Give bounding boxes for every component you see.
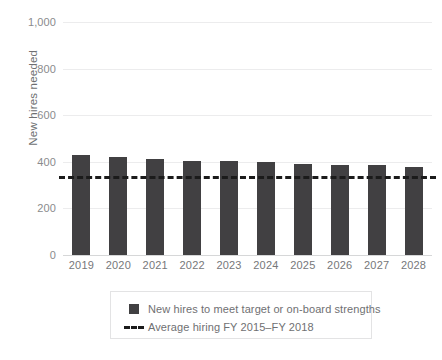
x-tick-label-2028: 2028 bbox=[401, 259, 426, 272]
bar-2028[interactable] bbox=[405, 167, 423, 255]
y-axis-title: New hires needed bbox=[28, 18, 40, 178]
chart-legend: New hires to meet target or on-board str… bbox=[110, 291, 372, 339]
x-tick-label-2020: 2020 bbox=[106, 259, 131, 272]
plot-area: 02004006008001,000 bbox=[63, 22, 432, 255]
y-tick-label: 200 bbox=[37, 203, 56, 214]
average-hiring-line bbox=[59, 176, 436, 179]
x-tick-label-2025: 2025 bbox=[290, 259, 315, 272]
x-tick-label-2022: 2022 bbox=[180, 259, 205, 272]
legend-item-new-hires[interactable]: New hires to meet target or on-board str… bbox=[124, 301, 381, 317]
x-tick-label-2023: 2023 bbox=[216, 259, 241, 272]
x-tick-label-2021: 2021 bbox=[143, 259, 168, 272]
bar-2021[interactable] bbox=[146, 159, 164, 255]
bars-layer bbox=[63, 22, 432, 255]
legend-dashed-line-icon bbox=[124, 326, 144, 329]
bar-chart: New hires needed 02004006008001,000 2019… bbox=[0, 0, 442, 360]
x-tick-label-2024: 2024 bbox=[253, 259, 278, 272]
legend-item-average-hiring[interactable]: Average hiring FY 2015–FY 2018 bbox=[124, 319, 314, 335]
x-tick-label-2019: 2019 bbox=[69, 259, 94, 272]
y-tick-label: 0 bbox=[50, 250, 56, 261]
legend-item-label: New hires to meet target or on-board str… bbox=[148, 304, 381, 315]
y-tick-label: 800 bbox=[37, 63, 56, 74]
bar-2020[interactable] bbox=[109, 157, 127, 255]
legend-item-label: Average hiring FY 2015–FY 2018 bbox=[148, 322, 314, 333]
gridline: 0 bbox=[63, 255, 432, 256]
bar-2019[interactable] bbox=[72, 155, 90, 255]
y-tick-label: 1,000 bbox=[28, 17, 56, 28]
y-tick-label: 600 bbox=[37, 110, 56, 121]
x-tick-label-2027: 2027 bbox=[364, 259, 389, 272]
x-tick-label-2026: 2026 bbox=[327, 259, 352, 272]
x-axis-labels: 2019202020212022202320242025202620272028 bbox=[63, 259, 432, 275]
y-tick-label: 400 bbox=[37, 156, 56, 167]
legend-square-swatch-icon bbox=[129, 304, 139, 314]
